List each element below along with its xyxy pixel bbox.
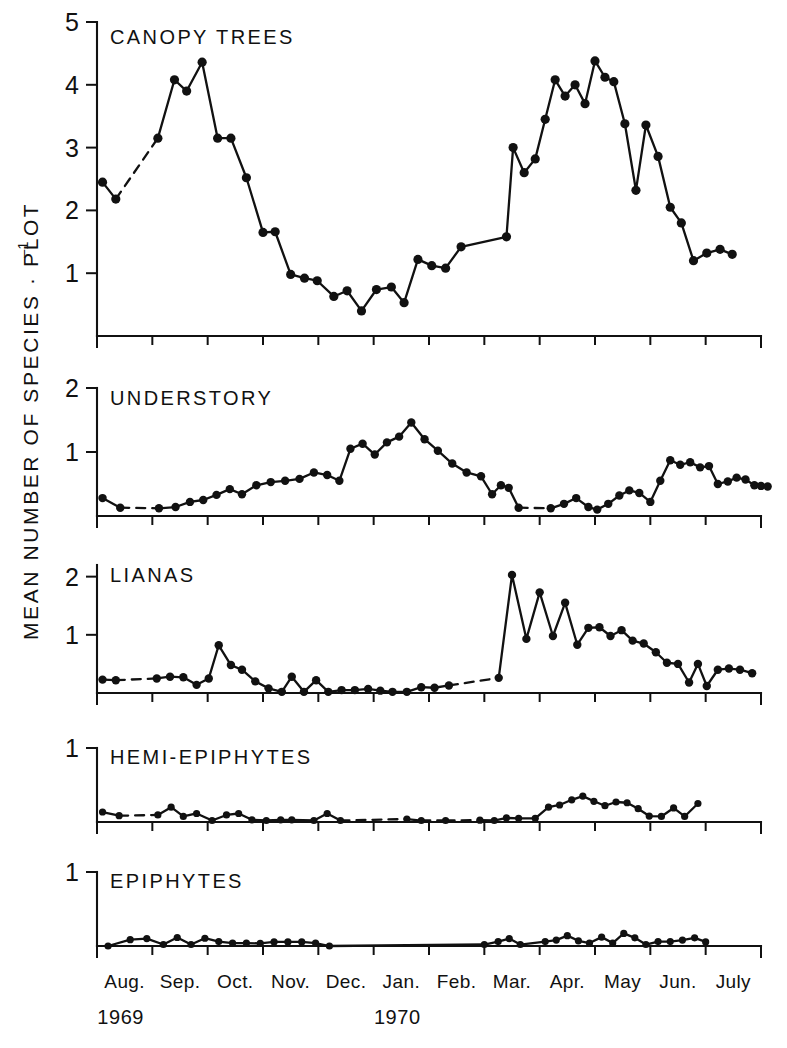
- data-point: [448, 459, 456, 467]
- data-point: [413, 255, 422, 264]
- data-point: [364, 685, 372, 693]
- data-point: [277, 816, 284, 823]
- data-point: [171, 503, 179, 511]
- y-axis-title-exponent: –1: [14, 241, 31, 258]
- data-point: [694, 660, 702, 668]
- data-point: [170, 75, 179, 84]
- data-point: [376, 686, 384, 694]
- data-point: [403, 688, 411, 696]
- data-point: [243, 939, 250, 946]
- data-point: [371, 450, 379, 458]
- data-point: [477, 472, 485, 480]
- data-point: [155, 504, 163, 512]
- data-point: [223, 811, 230, 818]
- panel-understory: 12UNDERSTORY: [65, 374, 772, 528]
- panel-lianas: 12LIANAS: [65, 563, 761, 705]
- data-point: [545, 804, 552, 811]
- data-point: [456, 242, 465, 251]
- data-point: [238, 490, 246, 498]
- data-point: [198, 58, 207, 67]
- data-point: [462, 468, 470, 476]
- x-month-label: Sep.: [160, 971, 201, 992]
- series-gap-segment: [116, 138, 158, 199]
- data-point: [748, 669, 756, 677]
- y-tick-label: 4: [65, 71, 79, 99]
- data-point: [631, 934, 638, 941]
- data-point: [310, 468, 318, 476]
- data-point: [383, 438, 391, 446]
- data-point: [606, 632, 614, 640]
- data-point: [99, 808, 106, 815]
- data-point: [590, 56, 599, 65]
- data-point: [553, 936, 560, 943]
- multi-panel-line-chart: MEAN NUMBER OF SPECIES · PLOT –1 12345CA…: [0, 0, 787, 1048]
- data-point: [215, 938, 222, 945]
- series-gap-segment: [119, 815, 158, 816]
- data-point: [116, 812, 123, 819]
- data-point: [715, 245, 724, 254]
- data-point: [324, 810, 331, 817]
- x-month-label: Nov.: [271, 971, 310, 992]
- data-point: [615, 491, 623, 499]
- data-point: [407, 418, 415, 426]
- data-point: [541, 115, 550, 124]
- data-point: [186, 498, 194, 506]
- data-point: [515, 815, 522, 822]
- data-point: [702, 249, 711, 258]
- y-tick-label: 1: [65, 438, 79, 466]
- data-point: [604, 500, 612, 508]
- data-point: [295, 475, 303, 483]
- x-year-label: 1969: [97, 1006, 144, 1028]
- data-point: [586, 939, 593, 946]
- data-point: [694, 800, 701, 807]
- data-point: [337, 817, 344, 824]
- data-point: [652, 648, 660, 656]
- data-point: [213, 134, 222, 143]
- data-point: [561, 92, 570, 101]
- y-axis-title: MEAN NUMBER OF SPECIES · PLOT: [19, 202, 42, 640]
- data-point: [570, 80, 579, 89]
- data-point: [508, 571, 516, 579]
- panels-layer: 12345CANOPY TREES12UNDERSTORY12LIANAS1HE…: [65, 8, 772, 958]
- data-point: [685, 678, 693, 686]
- data-point: [284, 938, 291, 945]
- data-point: [584, 503, 592, 511]
- data-point: [625, 486, 633, 494]
- y-tick-label: 2: [65, 374, 79, 402]
- data-point: [732, 473, 740, 481]
- data-point: [488, 490, 496, 498]
- data-point: [300, 274, 309, 283]
- y-tick-label: 3: [65, 134, 79, 162]
- data-point: [681, 813, 688, 820]
- data-point: [736, 666, 744, 674]
- data-point: [226, 134, 235, 143]
- data-point: [556, 801, 563, 808]
- y-tick-label: 2: [65, 563, 79, 591]
- data-point: [491, 817, 498, 824]
- data-point: [235, 810, 242, 817]
- data-point: [111, 194, 120, 203]
- data-point: [403, 815, 410, 822]
- data-point: [560, 500, 568, 508]
- data-point: [705, 462, 713, 470]
- data-point: [658, 813, 665, 820]
- panel-title: LIANAS: [110, 564, 196, 586]
- data-point: [542, 938, 549, 945]
- data-point: [143, 935, 150, 942]
- data-point: [609, 77, 618, 86]
- data-point: [430, 684, 438, 692]
- data-point: [445, 681, 453, 689]
- data-point: [387, 282, 396, 291]
- y-tick-label: 1: [65, 259, 79, 287]
- data-point: [166, 673, 174, 681]
- data-point: [595, 623, 603, 631]
- data-point: [724, 477, 732, 485]
- data-point: [326, 942, 333, 949]
- data-point: [620, 119, 629, 128]
- data-point: [503, 814, 510, 821]
- panel-title: CANOPY TREES: [110, 26, 295, 48]
- data-point: [666, 203, 675, 212]
- data-point: [728, 250, 737, 259]
- data-point: [174, 934, 181, 941]
- data-point: [547, 504, 555, 512]
